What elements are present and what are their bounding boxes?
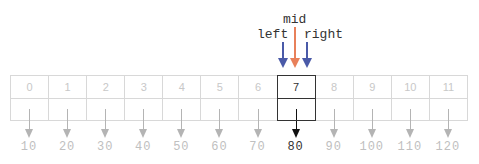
array-value: 40 — [123, 140, 163, 154]
array-value: 110 — [390, 140, 430, 154]
array-value: 30 — [85, 140, 125, 154]
index-cell: 9 — [353, 75, 392, 99]
index-cell: 8 — [315, 75, 354, 99]
array-value: 120 — [428, 140, 468, 154]
index-cell: 5 — [200, 75, 239, 99]
index-cell: 1 — [48, 75, 87, 99]
index-cell: 4 — [162, 75, 201, 99]
index-cell: 7 — [277, 75, 316, 99]
array-value: 50 — [161, 140, 201, 154]
index-cell: 3 — [124, 75, 163, 99]
array-value: 90 — [314, 140, 354, 154]
pointer-label-mid: mid — [283, 13, 306, 26]
array-value: 60 — [199, 140, 239, 154]
index-cell: 10 — [391, 75, 430, 99]
index-cell: 2 — [86, 75, 125, 99]
index-cell: 11 — [429, 75, 468, 99]
array-value: 20 — [47, 140, 87, 154]
array-value: 80 — [276, 140, 316, 154]
array-value: 70 — [238, 140, 278, 154]
reference-cell — [277, 98, 316, 122]
pointer-label-right: right — [304, 28, 343, 41]
pointer-label-left: left — [257, 28, 288, 41]
array-value: 100 — [352, 140, 392, 154]
index-cell: 6 — [238, 75, 277, 99]
index-cell: 0 — [10, 75, 49, 99]
array-value: 10 — [9, 140, 49, 154]
